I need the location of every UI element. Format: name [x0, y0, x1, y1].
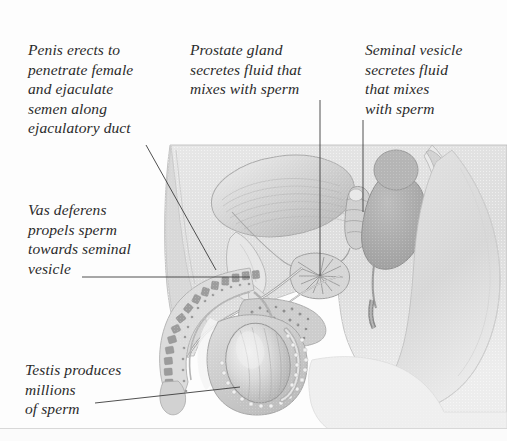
- footer-rule: [0, 428, 507, 429]
- label-prostate-gland: Prostate gland secretes fluid that mixes…: [190, 40, 340, 99]
- label-penis: Penis erects to penetrate female and eja…: [28, 40, 203, 138]
- label-seminal-vesicle: Seminal vesicle secretes fluid that mixe…: [365, 40, 500, 118]
- page-footer-band: [0, 429, 507, 441]
- figure-canvas: Penis erects to penetrate female and eja…: [0, 0, 507, 441]
- label-vas-deferens: Vas deferens propels sperm towards semin…: [28, 200, 203, 278]
- label-testis: Testis produces millions of sperm: [25, 360, 175, 419]
